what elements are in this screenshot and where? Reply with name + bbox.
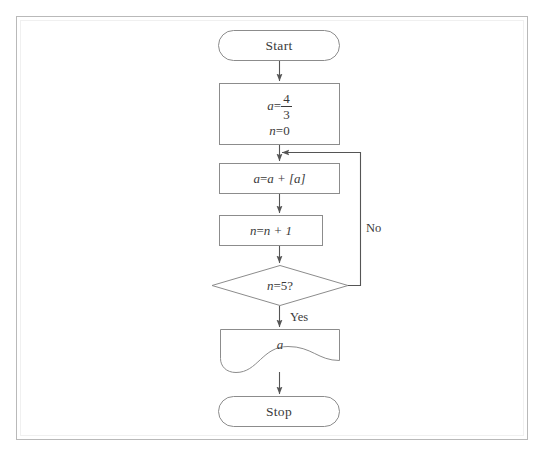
- node-update-a-shape: [220, 164, 340, 194]
- edge-label-yes: Yes: [290, 310, 308, 325]
- flowchart-canvas: Start a=43 n=0 a=a + [a] n=n + 1 n=5? a …: [0, 0, 555, 456]
- node-init-shape: [220, 84, 340, 145]
- node-start-shape: [219, 31, 340, 61]
- node-decision-shape: [212, 266, 348, 306]
- edge-label-no: No: [366, 221, 381, 236]
- node-stop-shape: [219, 397, 340, 427]
- edge-decision-no-loop: [282, 153, 361, 286]
- node-update-n-shape: [220, 216, 323, 246]
- flowchart-svg: [0, 0, 555, 456]
- node-output-shape: [221, 330, 340, 373]
